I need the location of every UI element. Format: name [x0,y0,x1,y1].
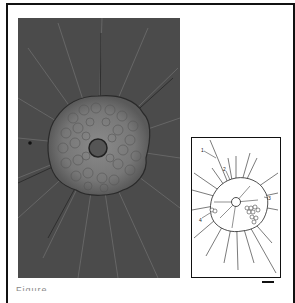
line-drawing-panel: 1 2 3 4 [191,137,281,278]
drawing-label-4: 4 [199,217,202,223]
drawing-label-2: 2 [223,166,226,172]
figure-caption-partial: Figure ... [16,286,62,291]
micrograph-panel [18,18,180,278]
drawing-label-1: 1 [201,147,204,153]
micrograph-image [18,18,180,278]
scale-bar [262,281,274,283]
drawing-label-3: 3 [268,195,271,201]
line-drawing-image: 1 2 3 4 [192,138,279,276]
